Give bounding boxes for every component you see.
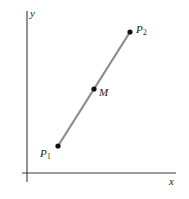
point-label-p2: P2 [136,24,146,35]
point-label-m: M [99,87,108,98]
x-axis-label: x [169,176,174,187]
point-label-p1: P1 [40,148,50,159]
point-label-p1-subscript: 1 [47,152,51,161]
point-label-p2-base: P [136,23,143,35]
point-label-p1-base: P [40,147,47,159]
diagram-canvas [0,0,189,199]
point-dot-m [91,86,96,91]
point-dot-p1 [55,143,60,148]
point-label-p2-subscript: 2 [143,28,147,37]
midpoint-diagram: y x P1 M P2 [0,0,189,199]
point-label-m-base: M [99,86,108,98]
point-dot-p2 [127,29,132,34]
y-axis-label: y [30,8,35,19]
